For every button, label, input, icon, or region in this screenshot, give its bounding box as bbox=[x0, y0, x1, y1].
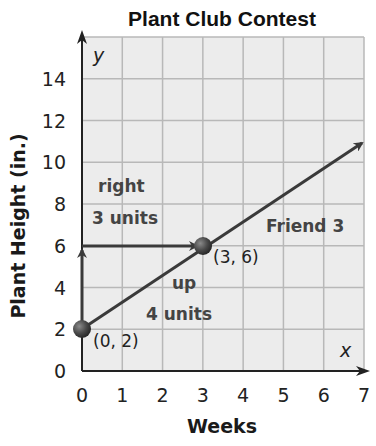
y-tick-label: 12 bbox=[42, 110, 66, 132]
right-annotation-line2: 3 units bbox=[92, 208, 158, 228]
point-label-3-6: (3, 6) bbox=[213, 247, 259, 267]
point-3-6 bbox=[194, 237, 212, 255]
x-tick-label: 0 bbox=[76, 384, 88, 406]
y-tick-label: 0 bbox=[54, 360, 66, 382]
x-tick-label: 4 bbox=[237, 384, 249, 406]
x-tick-label: 6 bbox=[318, 384, 330, 406]
y-tick-label: 6 bbox=[54, 235, 66, 257]
up-annotation-line1: up bbox=[172, 273, 196, 293]
point-label-0-2: (0, 2) bbox=[93, 331, 139, 351]
right-annotation-line1: right bbox=[98, 176, 145, 196]
y-tick-label: 10 bbox=[42, 151, 66, 173]
y-axis-title: Plant Height (in.) bbox=[7, 133, 29, 318]
y-tick-label: 2 bbox=[54, 318, 66, 340]
y-tick-label: 14 bbox=[42, 68, 66, 90]
y-axis-variable: y bbox=[92, 44, 105, 66]
y-tick-label: 8 bbox=[54, 193, 66, 215]
point-0-2 bbox=[73, 320, 91, 338]
chart-title: Plant Club Contest bbox=[128, 7, 316, 30]
x-tick-label: 2 bbox=[157, 384, 169, 406]
up-annotation-line2: 4 units bbox=[146, 304, 212, 324]
friend-3-label: Friend 3 bbox=[266, 216, 344, 236]
plant-club-chart: Plant Club Contest y x 02468101214 01234… bbox=[0, 0, 376, 446]
x-tick-label: 7 bbox=[358, 384, 370, 406]
y-tick-labels: 02468101214 bbox=[42, 68, 66, 382]
x-tick-label: 3 bbox=[197, 384, 209, 406]
y-tick-label: 4 bbox=[54, 277, 66, 299]
x-tick-label: 1 bbox=[116, 384, 128, 406]
x-axis-variable: x bbox=[339, 339, 352, 361]
x-axis-title: Weeks bbox=[187, 415, 257, 437]
x-tick-labels: 01234567 bbox=[76, 384, 370, 406]
x-tick-label: 5 bbox=[277, 384, 289, 406]
